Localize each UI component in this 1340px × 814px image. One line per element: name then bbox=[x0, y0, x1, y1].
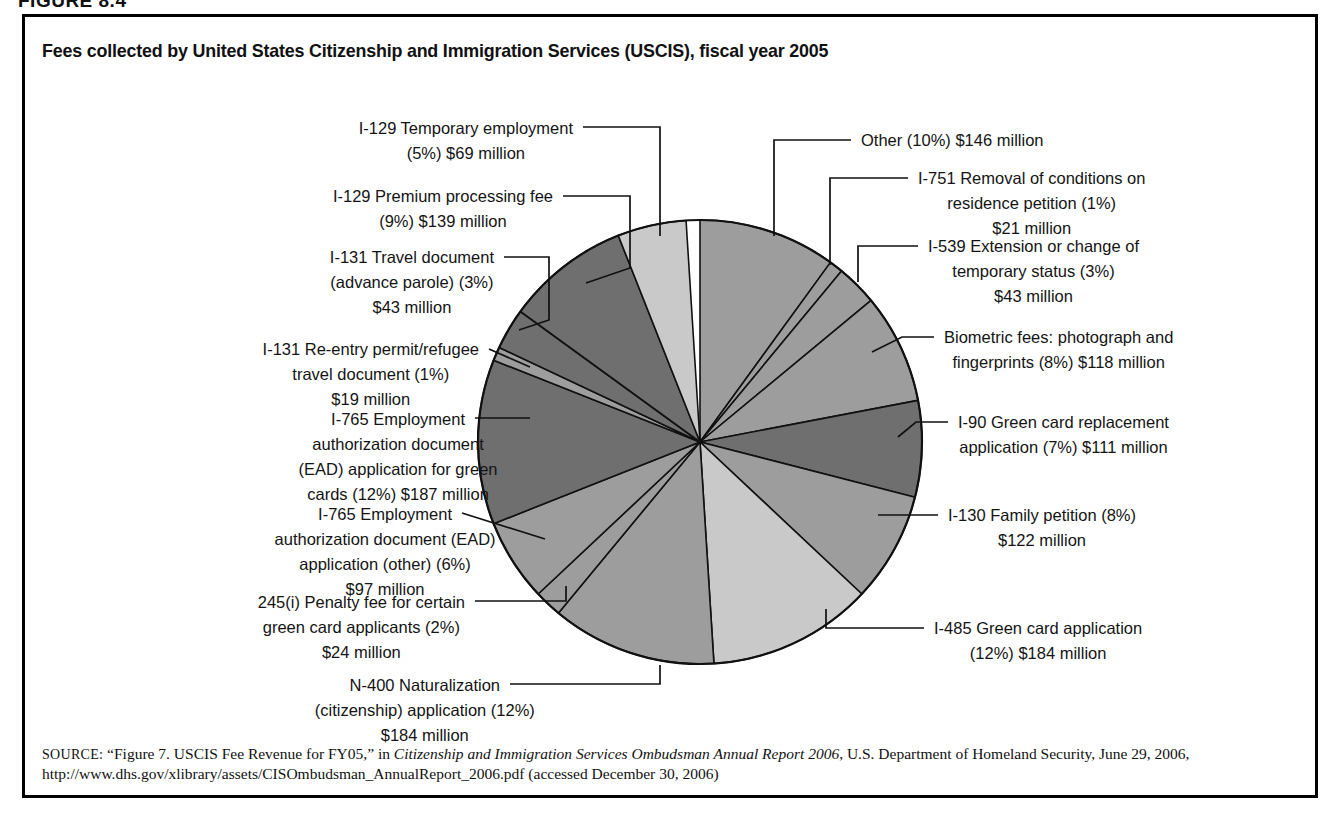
slice-label-line: fingerprints (8%) $118 million bbox=[952, 353, 1164, 371]
slice-label-line: Biometric fees: photograph and bbox=[944, 328, 1173, 346]
slice-label-n400: N-400 Naturalization(citizenship) applic… bbox=[315, 676, 535, 744]
source-quoted-title: “Figure 7. USCIS Fee Revenue for FY05,” bbox=[107, 745, 374, 762]
slice-label-i129premium: I-129 Premium processing fee(9%) $139 mi… bbox=[333, 187, 553, 230]
slice-label-line: (9%) $139 million bbox=[379, 212, 506, 230]
slice-label-line: $43 million bbox=[372, 298, 451, 316]
slice-label-line: I-131 Re-entry permit/refugee bbox=[263, 340, 479, 358]
leader-line-i129temp bbox=[583, 127, 660, 236]
slice-label-line: application (other) (6%) bbox=[299, 555, 471, 573]
slice-label-i129temp: I-129 Temporary employment(5%) $69 milli… bbox=[359, 119, 574, 162]
leader-line-n400 bbox=[510, 665, 660, 684]
slice-label-line: travel document (1%) bbox=[292, 365, 449, 383]
slice-label-line: 245(i) Penalty fee for certain bbox=[258, 593, 465, 611]
slice-label-line: cards (12%) $187 million bbox=[307, 485, 489, 503]
slice-label-line: (EAD) application for green bbox=[299, 460, 498, 478]
slice-label-line: (5%) $69 million bbox=[407, 144, 525, 162]
slice-label-i765other: I-765 Employmentauthorization document (… bbox=[275, 505, 496, 598]
slice-label-line: application (7%) $111 million bbox=[959, 438, 1168, 456]
slice-label-line: (advance parole) (3%) bbox=[330, 273, 493, 291]
slice-label-other: Other (10%) $146 million bbox=[861, 131, 1044, 149]
source-in-word: in bbox=[378, 745, 390, 762]
slice-label-line: I-131 Travel document bbox=[330, 248, 495, 266]
slice-label-line: I-485 Green card application bbox=[934, 619, 1142, 637]
source-prefix: SOURCE: bbox=[42, 747, 103, 762]
slice-label-i131travel: I-131 Travel document(advance parole) (3… bbox=[330, 248, 495, 316]
slice-label-penalty245i: 245(i) Penalty fee for certaingreen card… bbox=[258, 593, 465, 661]
slice-label-line: I-130 Family petition (8%) bbox=[948, 506, 1136, 524]
slice-label-line: authorization document (EAD) bbox=[275, 530, 496, 548]
slice-label-line: I-765 Employment bbox=[331, 410, 465, 428]
source-note: SOURCE: “Figure 7. USCIS Fee Revenue for… bbox=[42, 744, 1300, 785]
slice-label-i90: I-90 Green card replacementapplication (… bbox=[958, 413, 1169, 456]
slice-label-line: I-539 Extension or change of bbox=[928, 237, 1139, 255]
slice-label-biometric: Biometric fees: photograph andfingerprin… bbox=[944, 328, 1173, 371]
slice-label-i131reentry: I-131 Re-entry permit/refugeetravel docu… bbox=[263, 340, 479, 408]
slice-label-line: (citizenship) application (12%) bbox=[315, 701, 535, 719]
slice-label-line: I-90 Green card replacement bbox=[958, 413, 1169, 431]
slice-label-line: $21 million bbox=[992, 219, 1071, 237]
slice-label-i130: I-130 Family petition (8%)$122 million bbox=[948, 506, 1136, 549]
slice-label-line: I-129 Temporary employment bbox=[359, 119, 574, 137]
pie-slices-group bbox=[478, 220, 922, 664]
slice-label-line: $184 million bbox=[381, 726, 469, 744]
slice-label-line: temporary status (3%) bbox=[952, 262, 1114, 280]
slice-label-line: authorization document bbox=[312, 435, 484, 453]
slice-label-i485: I-485 Green card application(12%) $184 m… bbox=[934, 619, 1142, 662]
slice-label-line: I-751 Removal of conditions on bbox=[918, 169, 1145, 187]
slice-label-line: Other (10%) $146 million bbox=[861, 131, 1044, 149]
slice-label-line: $122 million bbox=[998, 531, 1086, 549]
slice-label-line: $24 million bbox=[322, 643, 401, 661]
slice-label-line: $43 million bbox=[994, 287, 1073, 305]
pie-chart-canvas: I-129 Temporary employment(5%) $69 milli… bbox=[0, 0, 1340, 814]
figure-page: FIGURE 8.4 Fees collected by United Stat… bbox=[0, 0, 1340, 814]
slice-label-line: green card applicants (2%) bbox=[263, 618, 460, 636]
slice-label-line: (12%) $184 million bbox=[970, 644, 1107, 662]
slice-label-i539: I-539 Extension or change oftemporary st… bbox=[928, 237, 1139, 305]
slice-label-line: $19 million bbox=[331, 390, 410, 408]
source-italic-title: Citizenship and Immigration Services Omb… bbox=[394, 745, 839, 762]
slice-label-line: I-765 Employment bbox=[318, 505, 452, 523]
leader-line-i539 bbox=[858, 246, 918, 282]
slice-label-line: I-129 Premium processing fee bbox=[333, 187, 553, 205]
slice-label-i765green: I-765 Employmentauthorization document(E… bbox=[299, 410, 498, 503]
leader-line-i751 bbox=[830, 178, 908, 265]
slice-label-i751: I-751 Removal of conditions onresidence … bbox=[918, 169, 1145, 237]
slice-label-line: residence petition (1%) bbox=[947, 194, 1116, 212]
slice-label-line: N-400 Naturalization bbox=[350, 676, 500, 694]
leader-line-other bbox=[774, 140, 851, 236]
